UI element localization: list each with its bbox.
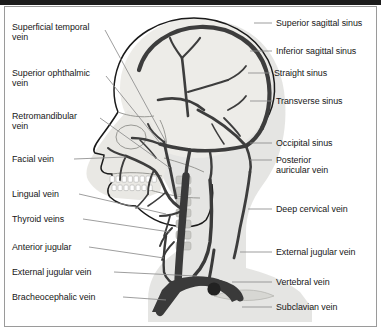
label-transverse-sinus: Transverse sinus bbox=[276, 96, 342, 106]
label-subclavian-vein: Subclavian vein bbox=[276, 302, 337, 312]
label-external-jugular-vein-right: External jugular vein bbox=[276, 247, 355, 257]
label-retromandibular-vein: Retromandibular vein bbox=[12, 111, 77, 132]
label-posterior-auricular-vein: Posterior auricular vein bbox=[276, 155, 328, 176]
label-inferior-sagittal-sinus: Inferior sagittal sinus bbox=[276, 46, 356, 56]
label-bracheocephalic-vein: Bracheocephalic vein bbox=[12, 292, 95, 302]
label-lingual-vein: Lingual vein bbox=[12, 189, 59, 199]
label-superior-ophthalmic-vein: Superior ophthalmic vein bbox=[12, 68, 90, 89]
label-external-jugular-vein-left: External jugular vein bbox=[12, 267, 91, 277]
label-deep-cervical-vein: Deep cervical vein bbox=[276, 204, 348, 214]
label-superficial-temporal-vein: Superficial temporal vein bbox=[12, 22, 89, 43]
label-anterior-jugular: Anterior jugular bbox=[12, 242, 71, 252]
label-vertebral-vein: Vertebral vein bbox=[276, 277, 330, 287]
label-straight-sinus: Straight sinus bbox=[274, 68, 327, 78]
label-occipital-sinus: Occipital sinus bbox=[276, 138, 332, 148]
label-facial-vein: Facial vein bbox=[12, 154, 54, 164]
leader-anterior-jugular bbox=[89, 247, 164, 258]
label-superior-sagittal-sinus: Superior sagittal sinus bbox=[276, 18, 362, 28]
label-thyroid-veins: Thyroid veins bbox=[12, 214, 64, 224]
vertebral-vein-ostium bbox=[207, 282, 220, 295]
figure-venous-drainage-head-neck: Superficial temporal vein Superior ophth… bbox=[0, 0, 381, 333]
